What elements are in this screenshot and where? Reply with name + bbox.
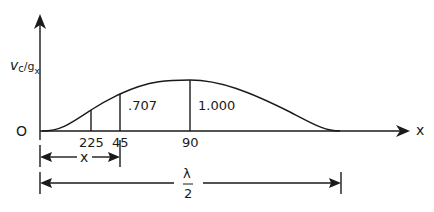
sine-half-wave-diagram: vc/gx O x 225 45 90 .707 1.000 x λ 2 bbox=[0, 0, 434, 212]
y-label-x: x bbox=[35, 66, 40, 76]
tick-label-45: 45 bbox=[112, 136, 129, 149]
ordinate-label-1000: 1.000 bbox=[198, 99, 235, 112]
y-label-g: g bbox=[28, 60, 35, 73]
origin-label: O bbox=[16, 124, 27, 138]
ordinate-label-707: .707 bbox=[128, 99, 157, 112]
tick-label-90: 90 bbox=[182, 136, 199, 149]
dimension-lambda-denominator: 2 bbox=[184, 187, 192, 200]
dimension-x-label: x bbox=[80, 150, 88, 164]
dimension-lambda-numerator: λ bbox=[183, 167, 191, 180]
half-sine-curve bbox=[42, 80, 340, 131]
y-axis-label: vc/gx bbox=[10, 58, 40, 76]
tick-label-225: 225 bbox=[79, 136, 104, 149]
x-axis-label: x bbox=[416, 123, 424, 137]
